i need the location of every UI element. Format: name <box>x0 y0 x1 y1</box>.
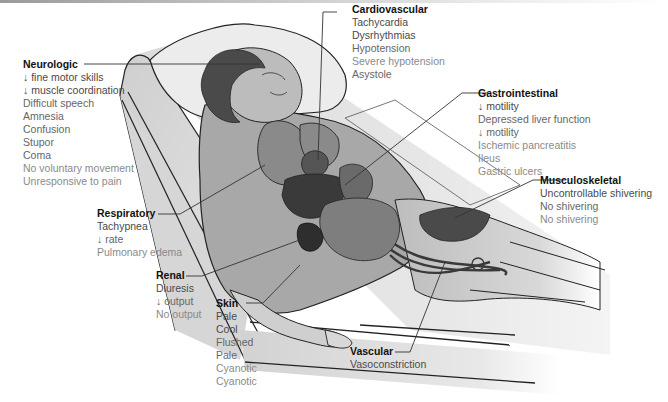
neurologic-item: ↓ fine motor skills <box>23 71 134 84</box>
skin-item: Cyanotic <box>216 375 257 388</box>
cardiovascular-item: Asystole <box>352 68 445 81</box>
musculoskeletal-item: No shivering <box>540 213 652 226</box>
neurologic-item: ↓ muscle coordination <box>23 84 134 97</box>
respiratory-item: ↓ rate <box>97 233 182 246</box>
skin-item: Pale <box>216 310 257 323</box>
neurologic-item: Confusion <box>23 123 134 136</box>
skin-title: Skin <box>216 297 257 310</box>
cardiovascular-item: Severe hypotension <box>352 55 445 68</box>
respiratory-group: Respiratory Tachypnea ↓ rate Pulmonary e… <box>97 207 182 259</box>
neurologic-item: Stupor <box>23 136 134 149</box>
neurologic-title: Neurologic <box>23 58 134 71</box>
gastrointestinal-item: Ischemic pancreatitis <box>478 139 591 152</box>
vascular-group: Vascular Vasoconstriction <box>350 345 426 371</box>
skin-item: Cyanotic <box>216 362 257 375</box>
gastrointestinal-item: ↓ motility <box>478 126 591 139</box>
musculoskeletal-item: No shivering <box>540 200 652 213</box>
renal-item: ↓ output <box>156 295 202 308</box>
cardiovascular-item: Tachycardia <box>352 16 445 29</box>
musculoskeletal-group: Musculoskeletal Uncontrollable shivering… <box>540 174 652 226</box>
musculoskeletal-title: Musculoskeletal <box>540 174 652 187</box>
neurologic-group: Neurologic ↓ fine motor skills ↓ muscle … <box>23 58 134 188</box>
neurologic-item: Unresponsive to pain <box>23 175 134 188</box>
skin-item: Cool <box>216 323 257 336</box>
neurologic-item: Difficult speech <box>23 97 134 110</box>
skin-item: Flushed <box>216 336 257 349</box>
cardiovascular-item: Dysrhythmias <box>352 29 445 42</box>
gastrointestinal-group: Gastrointestinal ↓ motility Depressed li… <box>478 87 591 178</box>
renal-group: Renal Diuresis ↓ output No output <box>156 269 202 321</box>
patient-head <box>201 48 302 123</box>
neurologic-item: Coma <box>23 149 134 162</box>
cardiovascular-group: Cardiovascular Tachycardia Dysrhythmias … <box>352 3 445 81</box>
cardiovascular-title: Cardiovascular <box>352 3 445 16</box>
vascular-item: Vasoconstriction <box>350 358 426 371</box>
skin-item: Pale <box>216 349 257 362</box>
renal-item: Diuresis <box>156 282 202 295</box>
neurologic-item: No voluntary movement <box>23 162 134 175</box>
respiratory-title: Respiratory <box>97 207 182 220</box>
respiratory-item: Pulmonary edema <box>97 246 182 259</box>
gastrointestinal-item: Ileus <box>478 152 591 165</box>
neurologic-item: Amnesia <box>23 110 134 123</box>
respiratory-item: Tachypnea <box>97 220 182 233</box>
gastrointestinal-item: Depressed liver function <box>478 113 591 126</box>
renal-title: Renal <box>156 269 202 282</box>
gastrointestinal-item: ↓ motility <box>478 100 591 113</box>
gastrointestinal-title: Gastrointestinal <box>478 87 591 100</box>
vascular-title: Vascular <box>350 345 426 358</box>
skin-group: Skin Pale Cool Flushed Pale Cyanotic Cya… <box>216 297 257 388</box>
musculoskeletal-item: Uncontrollable shivering <box>540 187 652 200</box>
renal-item: No output <box>156 308 202 321</box>
cardiovascular-item: Hypotension <box>352 42 445 55</box>
hand <box>325 330 352 348</box>
